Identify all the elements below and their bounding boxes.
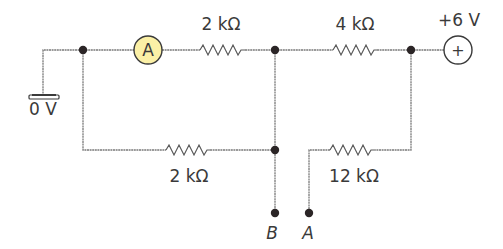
resistor-zigzag-icon — [330, 145, 375, 155]
resistor-bottom-left: 2 kΩ — [166, 145, 210, 186]
wire-12k-to-terminal-a — [309, 150, 330, 213]
resistor-bottom-right-label: 12 kΩ — [329, 166, 379, 186]
terminal-b-label: B — [266, 223, 278, 243]
resistor-zigzag-icon — [333, 45, 377, 55]
supply-label: +6 V — [438, 10, 480, 30]
resistor-top-left: 2 kΩ — [200, 14, 245, 55]
node-middle-bottom — [271, 146, 279, 154]
terminal-a-label: A — [301, 223, 314, 243]
resistor-zigzag-icon — [200, 45, 245, 55]
terminal-a-dot — [305, 209, 313, 217]
node-left-top — [79, 46, 87, 54]
supply-plus-symbol: + — [451, 41, 464, 60]
node-middle-top — [271, 46, 279, 54]
wire-ground-to-left-node — [43, 50, 83, 96]
circuit-diagram: 0 V A 2 kΩ 4 kΩ + +6 V 2 kΩ 12 kΩ — [0, 0, 503, 249]
node-right-top — [407, 46, 415, 54]
resistor-top-right-label: 4 kΩ — [335, 14, 374, 34]
wire-left-vertical-bottom — [83, 50, 166, 150]
ammeter-symbol: A — [142, 40, 154, 60]
ammeter: A — [134, 36, 162, 64]
resistor-bottom-left-label: 2 kΩ — [169, 166, 208, 186]
wires — [43, 50, 444, 213]
ground-symbol: 0 V — [29, 95, 59, 119]
resistor-top-right: 4 kΩ — [333, 14, 377, 55]
junction-nodes — [79, 46, 415, 154]
resistor-top-left-label: 2 kΩ — [201, 14, 240, 34]
supply-terminal: + +6 V — [438, 10, 480, 64]
wire-right-vertical — [375, 50, 411, 150]
terminal-b: B — [266, 209, 279, 243]
terminal-a: A — [301, 209, 314, 243]
resistor-bottom-right: 12 kΩ — [329, 145, 379, 186]
resistor-zigzag-icon — [166, 145, 210, 155]
terminal-b-dot — [271, 209, 279, 217]
ground-label: 0 V — [29, 99, 57, 119]
